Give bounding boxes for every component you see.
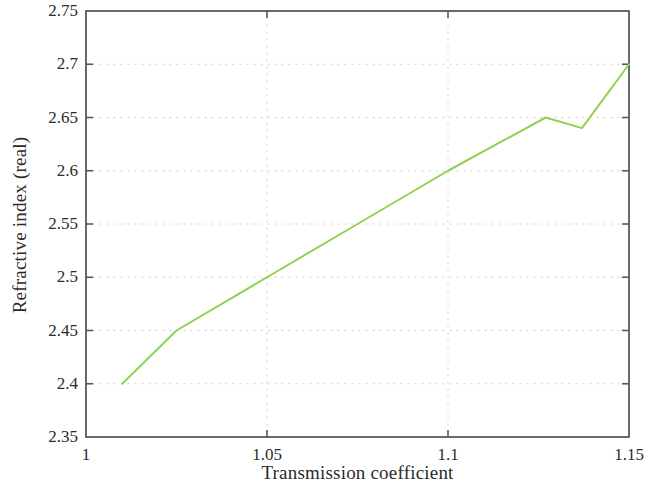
line-chart-plot	[0, 0, 650, 496]
chart-figure: Refractive index (real) Transmission coe…	[0, 0, 650, 496]
